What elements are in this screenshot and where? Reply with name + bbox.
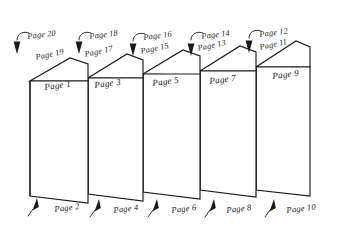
arrowhead-page-2 (33, 198, 39, 211)
sheet-4 (200, 46, 256, 197)
arrowhead-page-20 (14, 42, 21, 55)
callout-leader-page-10 (265, 210, 270, 217)
sheet-3 (143, 50, 200, 199)
sheet-5 (256, 41, 310, 196)
sheet-1-front-panel (30, 81, 88, 203)
arrowhead-page-16 (130, 44, 137, 57)
arrowhead-page-18 (76, 42, 83, 55)
figure-canvas: .ln{fill:none;stroke:#1a1a1a;stroke-widt… (0, 0, 339, 226)
callout-leader-page-4 (90, 210, 95, 217)
sheet-5-front-panel (256, 67, 310, 196)
arrowhead-page-10 (270, 199, 276, 212)
arrowhead-page-6 (153, 199, 159, 212)
callout-leader-page-6 (148, 210, 153, 217)
arrowhead-page-8 (210, 199, 216, 212)
sheet-2-rear-panel (88, 54, 143, 78)
sheet-4-front-panel (200, 71, 256, 197)
callout-leader-page-8 (205, 210, 210, 217)
callout-leader-page-2 (28, 209, 33, 216)
sheet-2 (88, 54, 143, 201)
sheet-3-front-panel (143, 74, 200, 199)
arrowhead-page-4 (95, 199, 101, 212)
sheet-2-front-panel (88, 78, 143, 201)
